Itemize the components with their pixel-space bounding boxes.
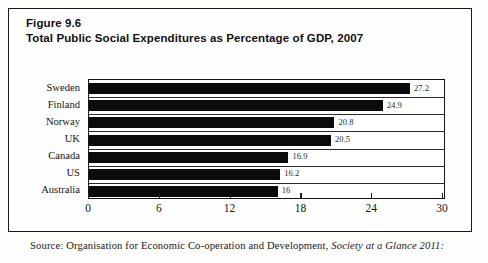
figure-page: Figure 9.6 Total Public Social Expenditu… — [0, 0, 488, 263]
source-text: Source: Organisation for Economic Co-ope… — [30, 240, 331, 251]
source-publication-title: Society at a Glance 2011: — [331, 240, 444, 251]
source-caption: Source: Organisation for Economic Co-ope… — [30, 240, 470, 251]
figure-number-label: Figure 9.6 — [26, 16, 81, 31]
figure-title: Total Public Social Expenditures as Perc… — [26, 31, 363, 46]
